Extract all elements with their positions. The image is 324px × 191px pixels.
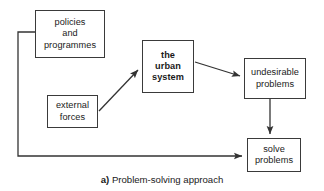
figure-caption-label: a) xyxy=(101,174,110,185)
node-policies-and-programmes[interactable]: policies and programmes xyxy=(35,10,105,58)
node-solve-problems[interactable]: solve problems xyxy=(247,138,301,172)
node-undesirable-problems[interactable]: undesirable problems xyxy=(244,58,306,99)
connector-external-to-urban xyxy=(99,70,138,111)
figure-caption: a) Problem-solving approach xyxy=(0,174,324,185)
diagram-canvas: policies and programmes external forces … xyxy=(0,0,324,191)
node-external-forces[interactable]: external forces xyxy=(47,95,98,128)
figure-caption-text: Problem-solving approach xyxy=(112,174,223,185)
node-the-urban-system[interactable]: the urban system xyxy=(142,40,194,93)
connector-urban-to-undesirable xyxy=(195,62,240,76)
